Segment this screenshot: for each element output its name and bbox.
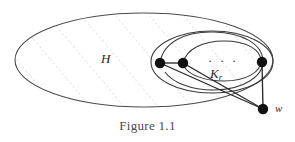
- figure-container: H · · · Kr w Figure 1.1: [0, 0, 295, 142]
- label-w: w: [275, 103, 282, 114]
- vertex-v2: [178, 58, 188, 68]
- label-Kr-base: K: [210, 66, 219, 81]
- vertex-v1: [155, 58, 165, 68]
- vertex-v3: [257, 57, 267, 67]
- vertex-w: [258, 104, 268, 114]
- figure-caption: Figure 1.1: [0, 118, 295, 134]
- label-Kr: Kr: [210, 67, 222, 82]
- label-H: H: [101, 52, 110, 65]
- label-Kr-subscript: r: [219, 72, 223, 82]
